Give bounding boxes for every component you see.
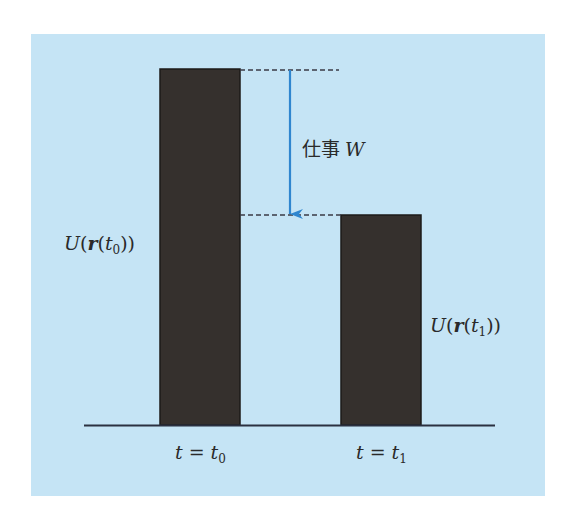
- potential-energy-diagram: 仕事W U(r(t0)) U(r(t1)) t=t0 t=t1: [0, 0, 576, 529]
- energy-label-t0: U(r(t0)): [64, 232, 135, 257]
- bar-t0: [160, 69, 240, 425]
- energy-label-t1: U(r(t1)): [430, 314, 501, 339]
- time-label-t1: t=t1: [356, 441, 407, 466]
- work-label: 仕事W: [302, 138, 366, 160]
- time-label-t0: t=t0: [175, 441, 226, 466]
- bar-t1: [341, 215, 421, 425]
